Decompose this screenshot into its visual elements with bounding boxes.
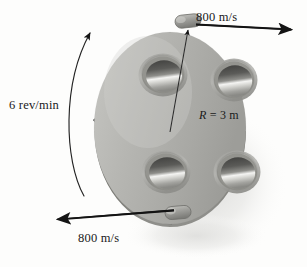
disk-face-sheen bbox=[104, 36, 192, 148]
radius-value: = 3 m bbox=[207, 108, 239, 122]
hole-top-right bbox=[211, 59, 258, 102]
bottom-velocity-label: 800 m/s bbox=[78, 231, 119, 246]
sprinkler-disk-figure bbox=[0, 0, 307, 267]
top-velocity-label: 800 m/s bbox=[196, 10, 237, 25]
radius-symbol: R bbox=[199, 108, 207, 122]
hole-bottom-left bbox=[142, 151, 191, 194]
rotation-arc bbox=[69, 33, 90, 196]
nozzle-bottom bbox=[165, 205, 192, 220]
hole-bottom-right bbox=[214, 151, 261, 194]
velocity-arrow-top-head bbox=[196, 25, 292, 30]
rotation-rate-label: 6 rev/min bbox=[9, 98, 59, 113]
radius-label: R = 3 m bbox=[199, 108, 239, 123]
